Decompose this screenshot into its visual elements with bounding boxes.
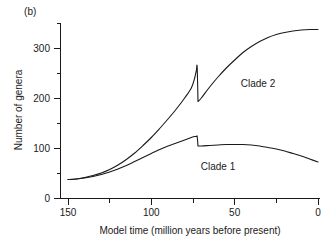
y-tick-label: 100 bbox=[33, 143, 50, 154]
axes bbox=[61, 23, 321, 199]
x-axis-tick-labels: 150100500 bbox=[60, 207, 322, 218]
y-tick-label: 200 bbox=[33, 93, 50, 104]
x-axis-ticks bbox=[68, 199, 318, 206]
series-label-clade-2: Clade 2 bbox=[241, 78, 276, 89]
chart-plot-area: 0100200300 150100500 Clade 2Clade 1 Mode… bbox=[0, 0, 336, 246]
x-tick-label: 150 bbox=[60, 207, 77, 218]
figure-panel: (b) 0100200300 150100500 Clade 2Clade 1 … bbox=[0, 0, 336, 246]
series-label-clade-1: Clade 1 bbox=[201, 161, 236, 172]
series-annotations: Clade 2Clade 1 bbox=[201, 78, 276, 172]
y-tick-label: 300 bbox=[33, 43, 50, 54]
y-tick-label: 0 bbox=[44, 193, 50, 204]
x-tick-label: 0 bbox=[315, 207, 321, 218]
x-axis-title: Model time (million years before present… bbox=[99, 225, 280, 236]
y-axis-title: Number of genera bbox=[13, 69, 24, 150]
y-axis-tick-labels: 0100200300 bbox=[33, 43, 50, 204]
x-tick-label: 100 bbox=[143, 207, 160, 218]
data-series-curves bbox=[68, 29, 318, 179]
series-line-clade-1 bbox=[68, 136, 318, 180]
y-axis-ticks bbox=[54, 23, 61, 198]
series-line-clade-2 bbox=[68, 29, 318, 179]
x-tick-label: 50 bbox=[229, 207, 241, 218]
